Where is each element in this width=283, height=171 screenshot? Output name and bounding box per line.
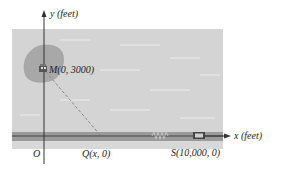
y-axis-arrow-icon (42, 10, 47, 17)
point-m-label: M(0, 3000) (49, 65, 94, 75)
x-axis-label: x (feet) (234, 131, 262, 141)
point-q-label: Q(x, 0) (82, 149, 110, 159)
origin-label: O (33, 149, 40, 159)
x-axis-arrow-icon (224, 134, 231, 139)
point-s-label: S(10,000, 0) (171, 148, 220, 158)
car-icon (193, 132, 205, 139)
dashed-path (46, 72, 101, 136)
lake-road-diagram: y (feet) M(0, 3000) O Q(x, 0) S(10,000, … (0, 0, 283, 171)
y-axis-label: y (feet) (50, 9, 78, 19)
boat-icon (39, 64, 47, 72)
diagram-graphics (0, 0, 283, 171)
spring-icon (152, 132, 168, 139)
